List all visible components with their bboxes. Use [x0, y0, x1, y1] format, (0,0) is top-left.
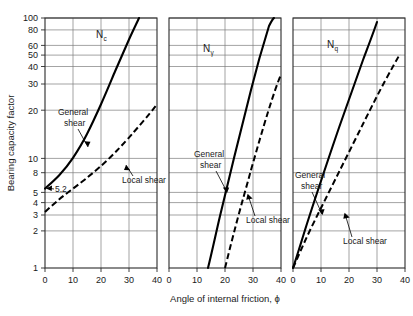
panel-ngamma-general-label-line2: shear	[200, 160, 221, 170]
panel-nq-general-arrowhead	[318, 209, 324, 215]
panel-nc-general-label-line1: General	[58, 107, 88, 117]
panel-nq-xtick-40: 40	[400, 275, 410, 285]
panel-ngamma-general-shear-curve	[208, 18, 274, 268]
ytick-label-60: 60	[28, 41, 38, 51]
ytick-label-10: 10	[28, 154, 38, 164]
ytick-label-80: 80	[28, 25, 38, 35]
panel-nc-xtick-10: 10	[68, 275, 78, 285]
panel-nq-xticks	[293, 268, 405, 272]
panel-nc-general-label-line2: shear	[64, 118, 85, 128]
panel-nq-xtick-0: 0	[290, 275, 295, 285]
panel-nq-xtick-20: 20	[344, 275, 354, 285]
panel-nc-xtick-30: 30	[124, 275, 134, 285]
bearing-capacity-factor-figure: 100 80 60 50 40 30 20 10 8 5 4 3 2 1 0 1…	[0, 0, 413, 316]
panel-nq-general-label-line1: General	[295, 170, 325, 180]
panel-nq-local-shear-annotation: Local shear	[343, 213, 387, 246]
panel-nc-xtick-0: 0	[42, 275, 47, 285]
panel-nc-symbol-sub: c	[104, 35, 108, 42]
panel-nc-general-shear-annotation: General shear	[58, 107, 91, 147]
panel-ngamma-general-label-line1: General	[194, 149, 224, 159]
panel-ngamma-xtick-30: 30	[248, 275, 258, 285]
panel-ngamma-xticks	[169, 268, 281, 272]
panel-nc-general-shear-curve	[45, 18, 139, 189]
ytick-label-40: 40	[28, 62, 38, 72]
panel-nq-symbol-sub: q	[335, 45, 339, 53]
ytick-label-5: 5	[33, 188, 38, 198]
panel-nc-symbol-base: N	[96, 29, 103, 40]
panel-nq-xtick-30: 30	[372, 275, 382, 285]
panel-ngamma-general-shear-annotation: General shear	[194, 149, 229, 193]
panel-ngamma-symbol-base: N	[203, 43, 210, 54]
panel-ngamma-local-shear-annotation: Local shear	[246, 194, 290, 225]
panel-nq-symbol-base: N	[327, 39, 334, 50]
panel-nc-xticks	[45, 268, 157, 272]
panel-nq-local-label: Local shear	[343, 236, 387, 246]
ytick-label-100: 100	[23, 13, 38, 23]
panel-ngamma-xtick-0: 0	[166, 275, 171, 285]
y-axis-title: Bearing capacity factor	[5, 95, 16, 192]
ytick-label-20: 20	[28, 106, 38, 116]
ytick-label-4: 4	[33, 198, 38, 208]
panel-ngamma-xtick-10: 10	[192, 275, 202, 285]
ytick-label-50: 50	[28, 50, 38, 60]
ytick-label-3: 3	[33, 210, 38, 220]
panel-nq: 0 10 20 30 40 N q General shear Local sh…	[290, 18, 410, 285]
panel-ngamma-xtick-20: 20	[220, 275, 230, 285]
panel-nc-gridlines	[45, 18, 157, 268]
panel-nc-xtick-40: 40	[152, 275, 162, 285]
panel-nc-yticks	[41, 18, 45, 268]
panel-ngamma-symbol-sub: γ	[211, 49, 215, 57]
x-axis-title: Angle of internal friction, ϕ	[170, 293, 280, 304]
ytick-label-2: 2	[33, 226, 38, 236]
ytick-label-8: 8	[33, 168, 38, 178]
panel-nc-symbol: N c	[96, 29, 108, 42]
ytick-label-30: 30	[28, 79, 38, 89]
panel-nq-xtick-10: 10	[316, 275, 326, 285]
chart-canvas: 100 80 60 50 40 30 20 10 8 5 4 3 2 1 0 1…	[0, 0, 413, 316]
panel-ngamma: 0 10 20 30 40 N γ General shear Local sh…	[166, 18, 290, 285]
panel-ngamma-local-arrowhead	[246, 194, 252, 200]
panel-nc-xtick-20: 20	[96, 275, 106, 285]
panel-nq-general-label-line2: shear	[301, 181, 322, 191]
panel-ngamma-gridlines	[169, 18, 281, 268]
panel-nc-local-shear-annotation: Local shear	[122, 165, 166, 185]
panel-ngamma-local-label: Local shear	[246, 215, 290, 225]
ytick-label-1: 1	[33, 263, 38, 273]
panel-nc-value-52-label: 5.2	[55, 184, 67, 194]
panel-ngamma-xtick-40: 40	[276, 275, 286, 285]
panel-nq-symbol: N q	[327, 39, 339, 53]
panel-nc: 100 80 60 50 40 30 20 10 8 5 4 3 2 1 0 1…	[23, 13, 166, 285]
panel-nc-local-label: Local shear	[122, 175, 166, 185]
